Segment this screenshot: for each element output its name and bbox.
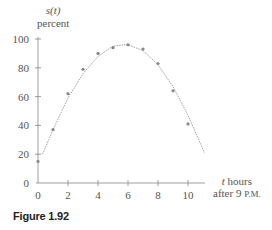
x-axis-label: t hours after 9 P.M.: [213, 175, 261, 200]
y-tick-label: 100: [13, 33, 30, 45]
y-axis-variable: s(t): [46, 4, 61, 16]
x-tick-label: 0: [35, 189, 41, 201]
data-point: [51, 128, 54, 131]
data-point: [126, 43, 129, 46]
x-axis-line2: after 9: [213, 187, 244, 199]
data-point: [66, 92, 69, 95]
data-point: [186, 122, 189, 125]
data-point: [111, 46, 114, 49]
y-axis-unit: percent: [37, 17, 69, 30]
fitted-curve: [43, 45, 205, 154]
figure-caption: Figure 1.92: [13, 210, 69, 222]
data-point: [171, 89, 174, 92]
y-tick-label: 80: [18, 62, 30, 74]
data-point: [141, 47, 144, 50]
data-point: [96, 52, 99, 55]
y-axis-label: s(t) percent: [37, 4, 69, 30]
x-tick-label: 10: [183, 189, 195, 201]
x-axis-unit: hours: [225, 175, 252, 187]
x-tick-label: 2: [65, 189, 71, 201]
x-axis-pm: P.M.: [244, 189, 261, 199]
y-tick-label: 60: [18, 91, 30, 103]
y-tick-label: 20: [18, 148, 30, 160]
data-point: [156, 62, 159, 65]
x-tick-label: 4: [95, 189, 101, 201]
data-point: [36, 160, 39, 163]
x-tick-label: 6: [125, 189, 131, 201]
data-point: [81, 68, 84, 71]
x-tick-label: 8: [155, 189, 161, 201]
y-tick-label: 40: [18, 119, 30, 131]
y-tick-label: 0: [24, 177, 30, 189]
